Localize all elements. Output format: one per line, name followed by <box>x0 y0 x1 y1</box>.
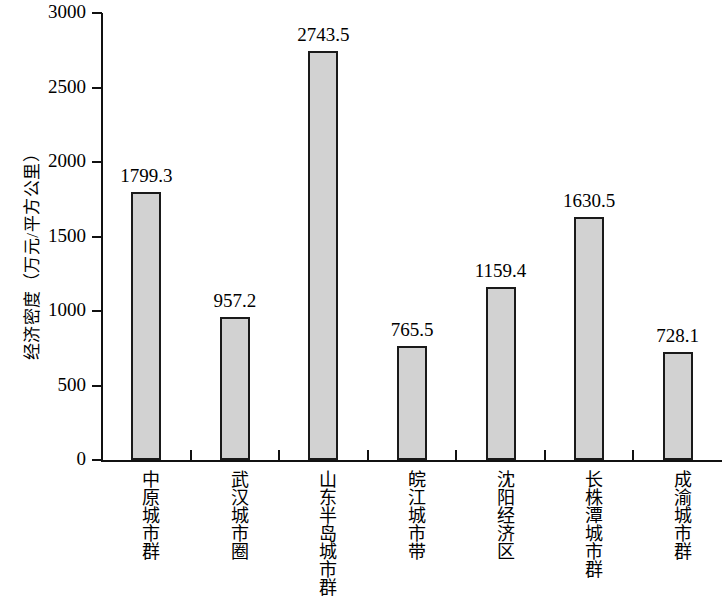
y-axis-tick-label: 500 <box>20 375 86 394</box>
bar-value-label: 2743.5 <box>273 25 373 45</box>
y-axis-tick <box>92 236 102 238</box>
category-label: 皖江城市带 <box>400 470 424 560</box>
y-axis-tick <box>92 87 102 89</box>
category-label: 成渝城市群 <box>666 470 690 560</box>
y-axis-tick-label: 1000 <box>20 300 86 319</box>
bar-value-label: 728.1 <box>628 326 723 346</box>
y-axis-tick-label: 0 <box>20 449 86 468</box>
bar-chart: 经济密度（万元/平方公里） 050010001500200025003000 1… <box>0 0 723 615</box>
y-axis-tick-label: 2500 <box>20 77 86 96</box>
x-axis-tick <box>632 450 634 461</box>
bar <box>574 217 604 460</box>
bar-value-label: 1159.4 <box>451 261 551 281</box>
category-label: 长株潭城市群 <box>577 470 601 578</box>
y-axis-tick-label-text: 1000 <box>22 300 86 319</box>
y-axis-tick-label-text: 2000 <box>22 151 86 170</box>
category-label: 武汉城市圈 <box>223 470 247 560</box>
bar <box>486 287 516 460</box>
bar <box>308 51 338 460</box>
y-axis-tick-label-text: 0 <box>22 449 86 468</box>
bar-value-label: 1630.5 <box>539 191 639 211</box>
x-axis-tick <box>278 450 280 461</box>
x-axis-tick <box>544 450 546 461</box>
bar <box>220 317 250 460</box>
bar <box>131 192 161 460</box>
bar-value-label: 1799.3 <box>96 166 196 186</box>
category-label: 中原城市群 <box>134 470 158 560</box>
y-axis-tick <box>92 12 102 14</box>
category-label: 沈阳经济区 <box>489 470 513 560</box>
bar <box>397 346 427 460</box>
x-axis-line <box>101 460 722 462</box>
y-axis-tick <box>92 161 102 163</box>
x-axis-tick <box>367 450 369 461</box>
bar-value-label: 765.5 <box>362 320 462 340</box>
y-axis-tick-label-text: 2500 <box>22 77 86 96</box>
y-axis-tick <box>92 459 102 461</box>
category-label: 山东半岛城市群 <box>311 470 335 596</box>
bar <box>663 352 693 460</box>
y-axis-tick <box>92 385 102 387</box>
y-axis-tick-label: 3000 <box>20 2 86 21</box>
y-axis-tick-label: 2000 <box>20 151 86 170</box>
bar-value-label: 957.2 <box>185 291 285 311</box>
x-axis-tick <box>455 450 457 461</box>
y-axis-tick-label-text: 500 <box>22 375 86 394</box>
y-axis-tick-label-text: 3000 <box>22 2 86 21</box>
y-axis-tick-label: 1500 <box>20 226 86 245</box>
y-axis-tick-label-text: 1500 <box>22 226 86 245</box>
y-axis-title: 经济密度（万元/平方公里） <box>18 88 43 418</box>
y-axis-tick <box>92 310 102 312</box>
y-axis-line <box>101 13 103 462</box>
x-axis-tick <box>190 450 192 461</box>
